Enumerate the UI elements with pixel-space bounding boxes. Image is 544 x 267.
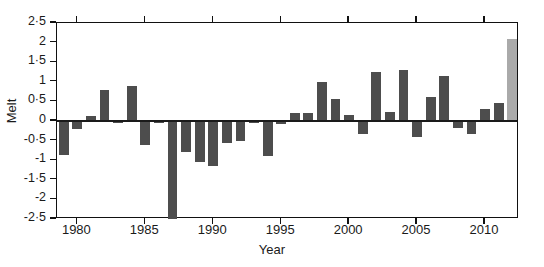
x-tick-label: 1985: [117, 222, 171, 237]
x-tick-mark-top: [347, 16, 348, 22]
bar-1985: [140, 121, 150, 145]
y-tick-mark: [50, 139, 56, 140]
bar-2006: [426, 97, 436, 121]
zero-line: [57, 120, 517, 121]
bar-1988: [181, 121, 191, 152]
x-tick-mark-top: [280, 16, 281, 22]
title-fragment: [60, 0, 520, 6]
bar-2012: [507, 39, 517, 121]
bar-series: [57, 23, 517, 217]
y-tick-mark: [50, 119, 56, 120]
x-tick-label: 1995: [253, 222, 307, 237]
y-tick-label: -0·5: [0, 133, 46, 146]
x-tick-mark-top: [415, 16, 416, 22]
x-tick-label: 2010: [457, 222, 511, 237]
bar-1979: [59, 121, 69, 155]
bar-1998: [317, 82, 327, 121]
y-tick-label: 2·5: [0, 15, 46, 28]
x-tick-label: 1990: [185, 222, 239, 237]
figure-root: Melt 2·521·510·50-0·5-1-1·5-2-2·5 198019…: [0, 0, 544, 267]
y-tick-label: -2: [0, 191, 46, 204]
y-tick-mark: [50, 100, 56, 101]
y-tick-label: -1: [0, 152, 46, 165]
bar-1987: [168, 121, 178, 219]
x-tick-mark-top: [483, 16, 484, 22]
x-tick-label: 1980: [49, 222, 103, 237]
y-tick-mark: [50, 61, 56, 62]
y-tick-label: 2: [0, 35, 46, 48]
bar-1989: [195, 121, 205, 162]
bar-1994: [263, 121, 273, 156]
bar-2007: [439, 76, 449, 121]
bar-2010: [480, 109, 490, 121]
x-tick-label: 2000: [321, 222, 375, 237]
y-tick-label: 1·5: [0, 54, 46, 67]
y-tick-mark: [50, 80, 56, 81]
y-tick-label: 0: [0, 113, 46, 126]
x-tick-mark-top: [144, 16, 145, 22]
y-tick-mark: [50, 198, 56, 199]
x-tick-mark-top: [76, 16, 77, 22]
x-tick-label: 2005: [389, 222, 443, 237]
bar-2001: [358, 121, 368, 134]
bar-1984: [127, 86, 137, 121]
x-axis-label: Year: [0, 242, 544, 257]
y-tick-mark: [50, 21, 56, 22]
x-tick-mark-top: [212, 16, 213, 22]
y-tick-mark: [50, 178, 56, 179]
bar-2002: [371, 72, 381, 121]
bar-1990: [208, 121, 218, 166]
y-tick-label: -2·5: [0, 211, 46, 224]
y-tick-mark: [50, 41, 56, 42]
bar-2011: [494, 103, 504, 121]
bar-2004: [399, 70, 409, 121]
y-tick-mark: [50, 217, 56, 218]
bar-2009: [467, 121, 477, 134]
bar-2005: [412, 121, 422, 137]
plot-area: [56, 22, 518, 218]
bar-1991: [222, 121, 232, 143]
y-tick-label: 1: [0, 74, 46, 87]
bar-1992: [236, 121, 246, 141]
y-tick-label: -1·5: [0, 172, 46, 185]
bar-1999: [331, 99, 341, 121]
bar-1982: [100, 90, 110, 121]
bar-1980: [72, 121, 82, 129]
y-tick-label: 0·5: [0, 93, 46, 106]
bar-2008: [453, 121, 463, 128]
y-tick-mark: [50, 159, 56, 160]
